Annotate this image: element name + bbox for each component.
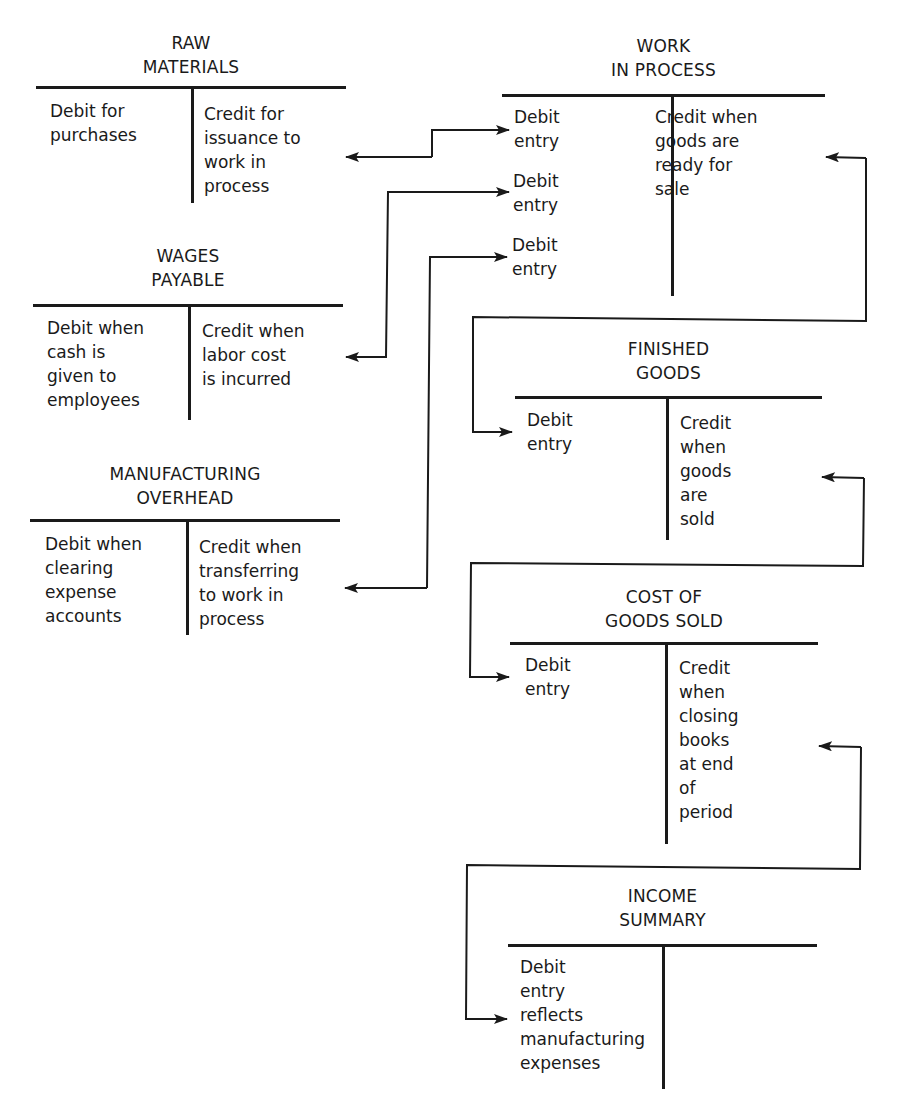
arrow-raw-materials-to-wip (432, 130, 509, 157)
arrow-fg-credit-head (822, 477, 864, 478)
debit-text-1: Debit entry (514, 105, 560, 153)
credit-text: Credit when closing books at end of peri… (679, 656, 739, 824)
account-title: MANUFACTURING OVERHEAD (30, 462, 340, 510)
arrow-cogs-credit-head (819, 746, 861, 747)
debit-text: Debit when clearing expense accounts (45, 532, 142, 628)
credit-text: Credit when transferring to work in proc… (199, 535, 301, 631)
t-account-horizontal-rule (510, 642, 818, 645)
account-title: WAGES PAYABLE (33, 244, 343, 292)
t-account-vertical-rule (188, 306, 191, 420)
debit-text: Debit for purchases (50, 99, 137, 147)
arrow-wip-credit-head (826, 157, 866, 158)
debit-text-3: Debit entry (512, 233, 558, 281)
t-account-vertical-rule (666, 398, 669, 540)
debit-text: Debit entry (527, 408, 573, 456)
t-account-horizontal-rule (502, 94, 825, 97)
account-title: RAW MATERIALS (36, 31, 346, 79)
debit-text: Debit entry reflects manufacturing expen… (520, 955, 645, 1075)
debit-text: Debit entry (525, 653, 571, 701)
credit-text: Credit when goods are ready for sale (655, 105, 757, 201)
arrow-wages-to-wip (346, 192, 509, 357)
t-account-vertical-rule (662, 946, 665, 1089)
credit-text: Credit when labor cost is incurred (202, 319, 304, 391)
credit-text: Credit when goods are sold (680, 411, 731, 531)
t-account-horizontal-rule (30, 519, 340, 522)
t-account-vertical-rule (186, 521, 189, 635)
credit-text: Credit for issuance to work in process (204, 102, 301, 198)
t-account-vertical-rule (191, 88, 194, 203)
account-title: FINISHED GOODS (515, 337, 822, 385)
account-title: WORK IN PROCESS (502, 34, 825, 82)
account-title: INCOME SUMMARY (508, 884, 817, 932)
arrow-overhead-to-wip (427, 257, 507, 588)
debit-text-2: Debit entry (513, 169, 559, 217)
t-account-vertical-rule (665, 644, 668, 844)
debit-text: Debit when cash is given to employees (47, 316, 144, 412)
account-title: COST OF GOODS SOLD (510, 585, 818, 633)
